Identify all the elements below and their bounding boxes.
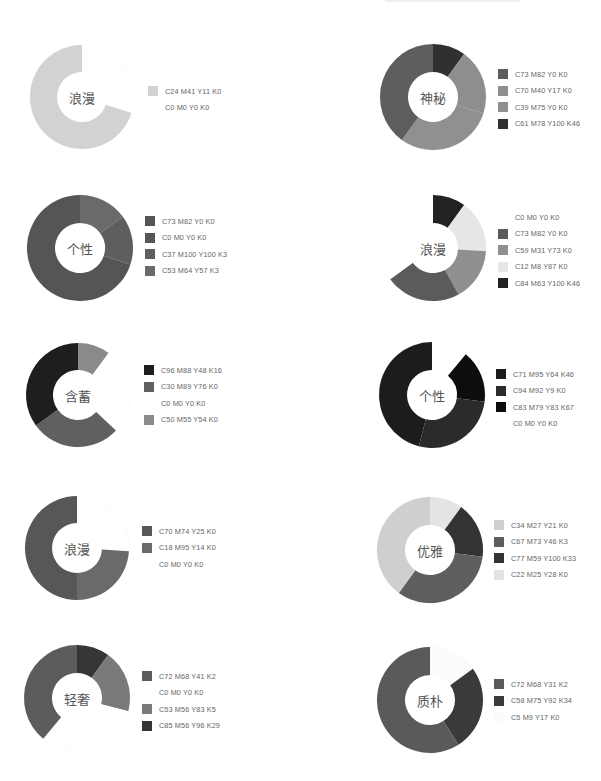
legend-label: C61 M78 Y100 K46 [515,119,580,128]
legend-item: C30 M89 Y76 K0 [144,379,222,396]
legend-label: C59 M31 Y73 K0 [515,246,572,255]
legend-label: C96 M88 Y48 K16 [161,366,222,375]
donut-center-label: 神秘 [420,88,447,107]
legend-swatch [144,365,154,375]
legend-item: C22 M25 Y28 K0 [494,567,576,584]
legend-label: C53 M56 Y83 K5 [159,705,216,714]
legend-swatch [144,415,154,425]
legend-swatch [145,266,155,276]
legend-label: C22 M25 Y28 K0 [511,570,568,579]
legend-swatch [142,704,152,714]
legend-item: C0 M0 Y0 K0 [148,100,221,117]
legend-label: C72 M68 Y41 K2 [159,672,216,681]
legend-swatch [145,233,155,243]
legend-item: C0 M0 Y0 K0 [142,556,216,573]
donut-slice [448,354,485,401]
legend-label: C0 M0 Y0 K0 [159,688,203,697]
legend-item: C71 M95 Y64 K46 [496,366,574,383]
chart-legend: C73 M82 Y0 K0C70 M40 Y17 K0C39 M75 Y0 K0… [498,66,580,132]
donut-slice [93,353,130,431]
legend-label: C5 M9 Y17 K0 [511,713,560,722]
donut-center-label: 优雅 [417,541,444,560]
legend-item: C73 M82 Y0 K0 [145,213,227,230]
donut-slice [445,250,486,295]
donut-slice [432,342,466,376]
legend-label: C73 M82 Y0 K0 [162,217,215,226]
legend-item: C34 M27 Y21 K0 [494,517,576,534]
donut-center-label: 浪漫 [420,239,447,258]
legend-swatch [498,102,508,112]
legend-item: C94 M92 Y9 K0 [496,383,574,400]
legend-item: C70 M74 Y25 K0 [142,523,216,540]
legend-item: C0 M0 Y0 K0 [144,395,222,412]
legend-label: C77 M59 Y100 K33 [511,554,576,563]
legend-item: C53 M64 Y57 K3 [145,263,227,280]
donut-slice [26,343,78,426]
legend-item: C0 M0 Y0 K0 [496,416,574,433]
donut-center-label: 个性 [67,239,94,258]
donut-slice [77,645,108,678]
donut-slice [380,195,433,279]
legend-swatch [496,369,506,379]
donut-center-label: 浪漫 [69,88,96,107]
donut-slice [430,647,473,685]
legend-label: C12 M8 Y87 K0 [515,262,568,271]
legend-swatch [494,712,504,722]
legend-swatch [144,398,154,408]
top-edge-bar [385,0,520,2]
legend-label: C71 M95 Y64 K46 [513,370,574,379]
legend-item: C5 M9 Y17 K0 [494,709,572,726]
donut-center-label: 个性 [419,386,446,405]
chart-legend: C24 M41 Y11 K0C0 M0 Y0 K0 [148,83,221,116]
donut-slice [92,655,130,711]
legend-swatch [145,216,155,226]
legend-item: C50 M55 Y54 K0 [144,412,222,429]
legend-swatch [148,86,158,96]
legend-label: C0 M0 Y0 K0 [165,103,209,112]
legend-item: C18 M95 Y14 K0 [142,540,216,557]
legend-swatch [494,679,504,689]
donut-slice [80,195,123,233]
legend-swatch [144,382,154,392]
chart-legend: C73 M82 Y0 K0C0 M0 Y0 K0C37 M100 Y100 K3… [145,213,227,279]
legend-item: C73 M82 Y0 K0 [498,226,580,243]
donut-slice [433,195,464,228]
legend-swatch [142,543,152,553]
chart-legend: C70 M74 Y25 K0C18 M95 Y14 K0C0 M0 Y0 K0 [142,523,216,573]
chart-legend: C71 M95 Y64 K46C94 M92 Y9 K0C83 M79 Y83 … [496,366,574,432]
donut-slice [43,704,128,751]
legend-item: C0 M0 Y0 K0 [498,209,580,226]
legend-item: C84 M63 Y100 K46 [498,275,580,292]
chart-legend: C96 M88 Y48 K16C30 M89 Y76 K0C0 M0 Y0 K0… [144,362,222,428]
chart-legend: C0 M0 Y0 K0C73 M82 Y0 K0C59 M31 Y73 K0C1… [498,209,580,292]
legend-label: C24 M41 Y11 K0 [165,87,221,96]
legend-swatch [142,671,152,681]
legend-label: C58 M75 Y92 K34 [511,696,572,705]
legend-item: C77 M59 Y100 K33 [494,550,576,567]
legend-item: C72 M68 Y31 K2 [494,676,572,693]
donut-slice [448,54,486,113]
donut-slice [443,669,483,745]
legend-swatch [498,86,508,96]
legend-label: C0 M0 Y0 K0 [162,233,206,242]
legend-swatch [498,69,508,79]
legend-label: C72 M68 Y31 K2 [511,680,568,689]
donut-slice [445,507,483,557]
legend-label: C0 M0 Y0 K0 [513,419,557,428]
legend-item: C73 M82 Y0 K0 [498,66,580,83]
chart-legend: C34 M27 Y21 K0C67 M73 Y46 K3C77 M59 Y100… [494,517,576,583]
legend-label: C70 M40 Y17 K0 [515,86,572,95]
legend-swatch [142,688,152,698]
donut-slice [433,44,464,77]
legend-item: C59 M31 Y73 K0 [498,242,580,259]
legend-item: C72 M68 Y41 K2 [142,668,220,685]
legend-label: C94 M92 Y9 K0 [513,386,566,395]
legend-swatch [494,570,504,580]
legend-label: C85 M56 Y96 K29 [159,721,220,730]
legend-swatch [496,386,506,396]
legend-swatch [498,262,508,272]
legend-label: C39 M75 Y0 K0 [515,103,568,112]
legend-label: C67 M73 Y46 K3 [511,537,568,546]
legend-swatch [142,526,152,536]
legend-label: C37 M100 Y100 K3 [162,250,227,259]
